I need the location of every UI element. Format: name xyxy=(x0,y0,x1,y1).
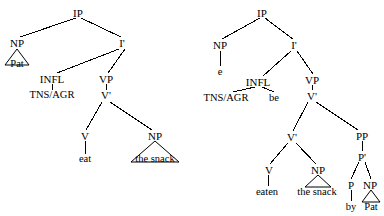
passive-node-vp: VP xyxy=(305,75,319,86)
edge-ibar-infl-p xyxy=(263,51,291,76)
passive-terminal-the-snack: the snack xyxy=(297,187,336,198)
syntax-tree-figure: IP NP Pat I' INFL TNS/AGR VP V' V eat NP… xyxy=(0,0,384,216)
edge-ibar-infl xyxy=(57,49,119,73)
active-node-infl: INFL xyxy=(40,74,64,85)
passive-node-v: V xyxy=(265,165,273,176)
edge-vbar-np xyxy=(110,102,152,130)
passive-tree-edges xyxy=(220,18,380,202)
edge-pbar-np xyxy=(365,162,371,179)
active-node-i-bar: I' xyxy=(119,38,125,49)
active-node-np-subject: NP xyxy=(10,38,24,49)
active-node-ip: IP xyxy=(73,8,83,19)
edge-ip-np xyxy=(20,18,76,37)
passive-node-pp: PP xyxy=(356,131,368,142)
edge-ip-ibar-p xyxy=(265,18,293,39)
passive-terminal-tns-agr: TNS/AGR xyxy=(204,93,249,104)
edge-vbartop-pp xyxy=(316,102,358,130)
passive-terminal-be: be xyxy=(269,93,279,104)
passive-terminal-by: by xyxy=(346,202,357,213)
passive-node-i-bar: I' xyxy=(291,40,297,51)
active-node-v: V xyxy=(81,131,89,142)
tree-branch-lines xyxy=(0,0,384,216)
edge-vbartop-vbarlow xyxy=(293,102,308,131)
passive-node-np-oblique: NP xyxy=(363,180,377,191)
edge-v-eaten xyxy=(268,175,269,186)
active-terminal-pat: Pat xyxy=(10,59,23,70)
edge-vbarlow-v xyxy=(270,143,288,164)
edge-pbar-p xyxy=(351,162,359,179)
active-terminal-tns-agr: TNS/AGR xyxy=(30,90,75,101)
passive-node-infl: INFL xyxy=(246,77,270,88)
passive-node-np-subject: NP xyxy=(213,40,227,51)
passive-terminal-pat: Pat xyxy=(364,202,377,213)
passive-terminal-eaten: eaten xyxy=(256,187,278,198)
passive-terminal-empty-e: e xyxy=(218,67,223,78)
passive-node-p-bar: P' xyxy=(358,152,366,163)
passive-node-v-bar-lower: V' xyxy=(287,132,297,143)
passive-node-p: P xyxy=(348,180,354,191)
edge-vbarlow-np xyxy=(296,143,316,164)
edge-ip-ibar xyxy=(81,18,121,37)
edge-ibar-vp-p xyxy=(297,51,313,74)
active-node-vp: VP xyxy=(99,74,113,85)
edge-vbar-v xyxy=(86,102,102,130)
active-node-np-object: NP xyxy=(148,131,162,142)
active-terminal-eat: eat xyxy=(79,154,91,165)
passive-node-v-bar-upper: V' xyxy=(307,91,317,102)
active-terminal-the-snack: the snack xyxy=(135,154,174,165)
active-node-v-bar: V' xyxy=(101,90,111,101)
passive-node-ip: IP xyxy=(257,8,267,19)
passive-node-np-object: NP xyxy=(311,165,325,176)
edge-ip-np-p xyxy=(222,18,260,39)
